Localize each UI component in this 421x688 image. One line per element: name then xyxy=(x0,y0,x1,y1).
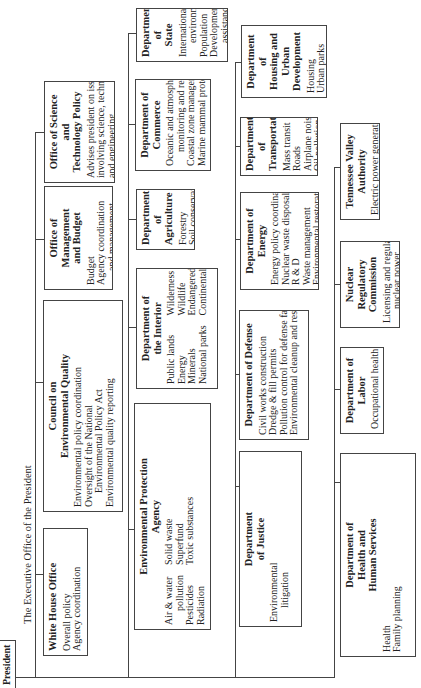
item: Wilderness xyxy=(166,268,177,315)
connector xyxy=(128,33,136,34)
epa-box: Environmental ProtectionAgency Air & wat… xyxy=(134,403,211,630)
item: Public lands xyxy=(166,325,177,384)
item: National parks xyxy=(198,325,209,384)
box-title: Transportation xyxy=(267,122,279,171)
box-title: Office of Management xyxy=(48,191,71,285)
connector xyxy=(35,574,43,575)
state-box: Department ofState Internationalenvironm… xyxy=(136,8,228,62)
item: Soil conservation xyxy=(188,194,195,245)
item: Marine mammal protection xyxy=(197,84,208,166)
item: Energy policy coordination xyxy=(270,197,281,285)
box-title: Agriculture xyxy=(163,194,175,245)
box-title: Department of xyxy=(244,122,267,171)
item: Toxic substances xyxy=(185,497,196,565)
box-title: Environmental Protection xyxy=(138,408,150,625)
president-box: President xyxy=(0,640,16,688)
defense-box: Department of Defense Civil works constr… xyxy=(239,310,309,440)
commerce-box: Department ofCommerce Oceanic and atmosp… xyxy=(135,79,211,171)
connector xyxy=(35,382,43,383)
box-title: Department of xyxy=(140,273,152,384)
box-title: Department of xyxy=(245,30,268,93)
item: Environmental policy coordination xyxy=(73,305,84,507)
exec-office-spine xyxy=(35,133,36,678)
row1-spine xyxy=(128,34,129,678)
connector xyxy=(35,239,44,240)
labor-box: Department of Labor Occupational health xyxy=(340,347,384,434)
box-title: Department of xyxy=(139,84,151,166)
council-environmental-quality-box: Council onEnvironmental Quality Environm… xyxy=(43,300,123,512)
box-title: Commerce xyxy=(151,84,163,166)
agriculture-box: Department ofAgriculture ForestrySoil co… xyxy=(136,189,195,250)
box-title: Urban Development xyxy=(280,30,303,93)
box-title: Department xyxy=(243,456,255,622)
item: Electric power generation xyxy=(370,128,380,215)
interior-box: Department ofthe Interior Public landsEn… xyxy=(136,268,218,389)
row2-spine xyxy=(235,63,236,678)
energy-box: Department of Energy Energy policy coord… xyxy=(240,192,319,290)
box-title: Health and xyxy=(356,458,368,652)
box-title: the Interior xyxy=(152,273,164,384)
nrc-box: Nuclear RegulatoryCommission Licensing a… xyxy=(340,241,400,328)
box-title: Department of Energy xyxy=(244,197,267,285)
hud-box: Department ofHousing andUrban Developmen… xyxy=(241,25,327,98)
row3-spine xyxy=(334,168,335,678)
box-title: Department of xyxy=(344,458,356,652)
box-title: Agency xyxy=(150,408,162,625)
ostp-box: Office of Science andTechnology Policy A… xyxy=(44,81,115,183)
item: Oil pollution xyxy=(313,122,318,171)
box-title: Office of Science and xyxy=(48,86,71,178)
item: Environmental restoration xyxy=(312,197,319,285)
omb-box: Office of Managementand Budget BudgetAge… xyxy=(44,186,113,290)
item: Oceanic and atmospheric xyxy=(165,84,176,166)
transportation-box: Department ofTransportation Mass transit… xyxy=(240,117,318,176)
white-house-office-box: White House Office Overall policyAgency … xyxy=(43,528,88,656)
item: Occupational health xyxy=(370,352,381,429)
box-title: Nuclear Regulatory xyxy=(344,246,367,323)
item: nuclear power xyxy=(392,246,400,323)
connector xyxy=(128,327,136,328)
box-title: Department of xyxy=(140,13,163,57)
box-title: State xyxy=(163,13,175,57)
box-title: Department of Defense xyxy=(243,315,255,435)
item: Solid waste xyxy=(164,497,175,565)
root-connector xyxy=(16,677,335,678)
connector xyxy=(128,124,135,125)
box-title: Environmental Quality xyxy=(59,305,71,507)
item: Family planning xyxy=(392,458,403,652)
org-chart: President The Executive Office of the Pr… xyxy=(0,0,421,688)
box-title: Council on xyxy=(47,305,59,507)
box-title: Housing and xyxy=(268,30,280,93)
hhs-box: Department ofHealth andHuman Services He… xyxy=(340,453,416,657)
item: Environmental quality reporting xyxy=(105,305,116,507)
connector xyxy=(35,132,44,133)
box-title: Commission xyxy=(367,246,379,323)
item: Radiation xyxy=(196,575,207,625)
item: and engineering xyxy=(107,86,115,178)
box-title: Tennessee Valley Authority xyxy=(344,128,367,215)
item: and management xyxy=(107,191,113,285)
item: Agency coordination xyxy=(72,533,83,651)
box-title: White House Office xyxy=(47,533,59,651)
item: assistance xyxy=(220,13,228,57)
item: litigation xyxy=(280,456,291,622)
item: Continental shelf xyxy=(198,268,209,315)
box-title: and Budget xyxy=(71,191,83,285)
justice-box: Departmentof Justice Environmentallitiga… xyxy=(239,451,302,627)
item: Air & water xyxy=(164,575,175,625)
box-title: Department of xyxy=(140,194,163,245)
executive-office-label: The Executive Office of the President xyxy=(22,465,33,624)
box-title: Human Services xyxy=(367,458,379,652)
box-title: of Justice xyxy=(255,456,267,622)
item: Environmental xyxy=(269,456,280,622)
item: Environmental cleanup and restoration xyxy=(289,315,300,435)
connector xyxy=(128,219,136,220)
box-title: Technology Policy xyxy=(71,86,83,178)
box-title: Department of Labor xyxy=(344,352,367,429)
tva-box: Tennessee Valley Authority Electric powe… xyxy=(340,123,380,220)
